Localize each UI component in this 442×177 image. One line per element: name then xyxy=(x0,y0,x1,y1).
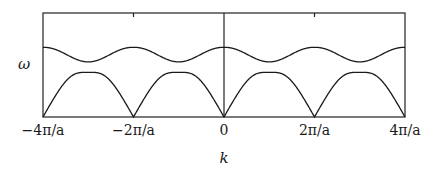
x-tick-label: 0 xyxy=(220,122,229,138)
x-tick-label: 2π/a xyxy=(299,122,330,138)
x-tick-label: 4π/a xyxy=(389,122,420,138)
dispersion-chart: ω −4π/a −2π/a 0 2π/a 4π/a k xyxy=(0,0,442,177)
x-tick-label: −4π/a xyxy=(22,122,65,138)
x-axis-label: k xyxy=(219,149,228,167)
x-tick-label: −2π/a xyxy=(112,122,155,138)
y-axis-label: ω xyxy=(18,55,30,73)
